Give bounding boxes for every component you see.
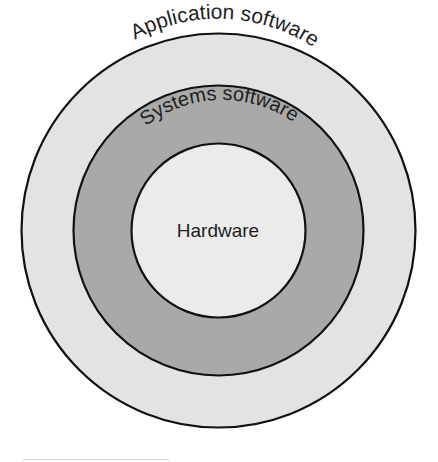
hardware-label: Hardware [177, 220, 259, 241]
concentric-layers-diagram: Application software Systems software Ha… [0, 0, 438, 462]
stray-rule-line [22, 459, 170, 460]
